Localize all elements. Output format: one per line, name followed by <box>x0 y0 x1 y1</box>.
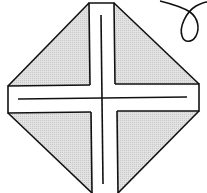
turn-over-loop-arrow-icon <box>160 1 207 41</box>
vertical-strip-left-bottom <box>91 112 92 193</box>
fold-diagram <box>0 0 207 193</box>
horizontal-center-line <box>18 97 187 99</box>
vertical-strip-right-bottom <box>117 111 118 193</box>
vertical-center-line <box>101 15 103 184</box>
